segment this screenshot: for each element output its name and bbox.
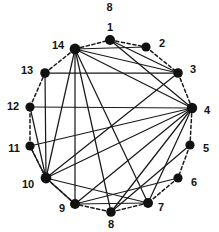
node-label: 5 [203,143,209,154]
node-label: 11 [8,143,20,154]
dashed-edge [190,108,192,145]
graph-node[interactable] [187,103,197,113]
node-label: 12 [7,101,19,112]
circular-graph-svg [0,0,219,232]
graph-node[interactable] [141,42,150,51]
solid-edge [30,107,192,108]
node-label: 10 [22,179,34,190]
node-label: 14 [52,40,64,51]
solid-edge [75,49,192,108]
graph-node[interactable] [173,68,183,78]
graph-node[interactable] [25,141,34,150]
node-label: 2 [159,38,165,49]
graph-node[interactable] [40,68,50,78]
dashed-edge [30,73,45,107]
graph-node[interactable] [106,207,116,217]
dashed-edge [110,40,146,47]
graph-node[interactable] [185,140,194,149]
node-label: 6 [191,177,197,188]
node-label: 1 [107,22,113,33]
node-label: 4 [204,105,210,116]
solid-edge [30,108,192,146]
node-label: 3 [190,64,196,75]
solid-edge [46,178,148,203]
graph-node[interactable] [70,199,80,209]
node-label: 8 [108,219,114,230]
graph-node[interactable] [70,44,81,55]
figure-container: 8 1234567891011121314 [0,0,219,232]
node-label: 13 [21,65,33,76]
graph-node[interactable] [143,198,153,208]
graph-node[interactable] [105,35,115,45]
solid-edge [75,203,148,204]
node-label: 9 [59,203,65,214]
dashed-edge [75,204,111,212]
solid-edge [75,49,178,73]
graph-node[interactable] [41,173,52,184]
graph-node[interactable] [25,102,34,111]
node-label: 7 [158,202,164,213]
solid-edge [75,47,146,49]
graph-node[interactable] [173,173,182,182]
solid-edge [45,73,46,178]
